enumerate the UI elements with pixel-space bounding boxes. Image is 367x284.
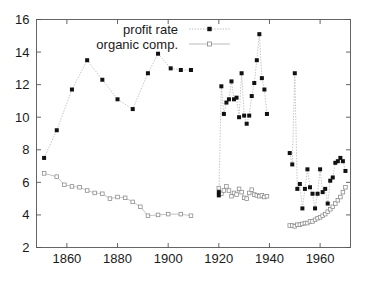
data-point-profit-rate [290,162,294,166]
data-point-profit-rate [316,192,320,196]
data-point-organic-comp [93,191,97,195]
data-point-profit-rate [169,66,173,70]
plot-frame [37,20,351,248]
data-point-profit-rate [245,122,249,126]
data-point-profit-rate [311,192,315,196]
data-point-organic-comp [250,188,254,192]
x-tick-label: 1880 [103,251,132,266]
data-point-organic-comp [179,212,183,216]
data-point-profit-rate [146,71,150,75]
data-point-profit-rate [235,96,239,100]
data-point-profit-rate [227,97,231,101]
data-point-organic-comp [265,194,269,198]
legend-marker-profit-rate [207,27,211,31]
data-point-organic-comp [146,214,150,218]
data-point-organic-comp [341,190,345,194]
data-point-profit-rate [116,97,120,101]
data-point-organic-comp [85,189,89,193]
data-point-profit-rate [343,169,347,173]
data-point-profit-rate [323,187,327,191]
x-tick-label: 1900 [154,251,183,266]
x-axis-ticks [67,20,320,248]
legend-marker-organic-comp [208,42,212,46]
data-point-profit-rate [229,79,233,83]
y-tick-label: 14 [15,45,29,60]
y-tick-label: 10 [15,110,29,125]
data-point-profit-rate [262,88,266,92]
data-point-profit-rate [303,187,307,191]
y-axis-tick-labels: 246810121416 [15,12,29,255]
y-tick-label: 4 [22,207,29,222]
data-point-profit-rate [156,52,160,56]
data-point-profit-rate [331,175,335,179]
data-point-profit-rate [260,76,264,80]
legend-entry-profit-rate: profit rate [123,22,178,37]
data-point-organic-comp [222,189,226,193]
data-point-profit-rate [70,88,74,92]
x-tick-label: 1940 [255,251,284,266]
data-point-profit-rate [55,128,59,132]
data-point-profit-rate [222,112,226,116]
data-point-profit-rate [326,202,330,206]
data-point-organic-comp [189,214,193,218]
data-point-organic-comp [123,196,127,200]
data-point-profit-rate [257,32,261,36]
series-organic-comp [42,172,347,229]
legend-entry-organic-comp: organic comp. [96,37,178,52]
data-point-profit-rate [237,115,241,119]
data-point-profit-rate [313,206,317,210]
data-point-profit-rate [293,71,297,75]
data-point-organic-comp [42,172,46,176]
x-tick-label: 1860 [52,251,81,266]
data-point-profit-rate [240,71,244,75]
data-point-profit-rate [295,187,299,191]
data-point-profit-rate [288,151,292,155]
data-point-organic-comp [108,197,112,201]
chart-plot-area: 186018801900192019401960 246810121416 pr… [0,0,367,284]
data-point-organic-comp [339,195,343,199]
data-point-profit-rate [265,112,269,116]
data-point-profit-rate [42,156,46,160]
data-point-organic-comp [116,195,120,199]
series-profit-rate [42,32,347,210]
data-point-profit-rate [305,167,309,171]
data-point-organic-comp [78,185,82,189]
data-point-organic-comp [63,183,67,187]
data-point-organic-comp [240,190,244,194]
data-point-organic-comp [55,175,59,179]
data-point-profit-rate [300,206,304,210]
data-point-profit-rate [242,114,246,118]
data-point-organic-comp [139,205,143,209]
y-tick-label: 8 [22,142,29,157]
data-point-profit-rate [247,114,251,118]
data-point-profit-rate [250,94,254,98]
x-axis-tick-labels: 186018801900192019401960 [52,251,334,266]
data-point-profit-rate [308,185,312,189]
y-axis-ticks [37,20,351,248]
data-point-organic-comp [156,213,160,217]
y-tick-label: 2 [22,240,29,255]
data-point-profit-rate [341,159,345,163]
data-point-profit-rate [85,58,89,62]
data-point-organic-comp [225,185,229,189]
data-point-organic-comp [344,185,348,189]
y-tick-label: 16 [15,12,29,27]
data-point-organic-comp [101,192,105,196]
series-line [44,173,191,215]
data-point-profit-rate [219,84,223,88]
data-point-organic-comp [70,185,74,189]
data-point-profit-rate [252,81,256,85]
data-point-organic-comp [131,200,135,204]
data-point-organic-comp [227,189,231,193]
data-point-profit-rate [318,167,322,171]
chart-legend: profit rateorganic comp. [96,22,230,52]
y-tick-label: 12 [15,77,29,92]
data-point-profit-rate [179,68,183,72]
data-point-profit-rate [100,78,104,82]
data-point-profit-rate [255,58,259,62]
data-point-profit-rate [298,182,302,186]
data-point-organic-comp [235,193,239,197]
data-point-profit-rate [217,193,221,197]
x-tick-label: 1960 [306,251,335,266]
y-tick-label: 6 [22,175,29,190]
